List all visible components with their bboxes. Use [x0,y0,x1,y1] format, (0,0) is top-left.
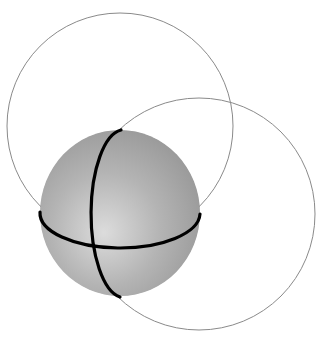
sphere-cover [41,131,200,296]
sphere-circles-diagram [0,0,318,337]
diagram-canvas [0,0,318,337]
